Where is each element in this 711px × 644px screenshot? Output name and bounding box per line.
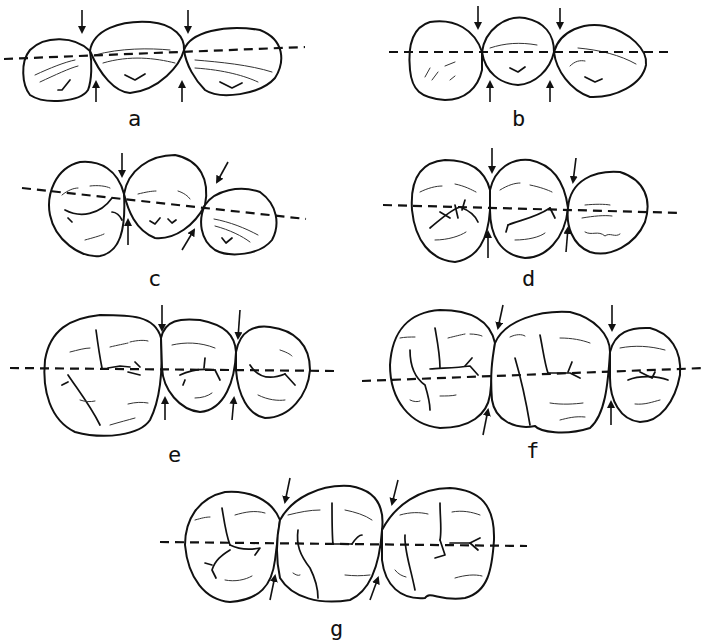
tooth-e1 [44,315,161,436]
tooth-e3 [236,327,310,418]
panel-c [22,153,306,256]
tooth-c1 [49,162,124,256]
panel-e [10,305,336,436]
tooth-c3 [201,189,276,254]
panel-label-f: f [526,440,539,462]
panel-label-a: a [128,108,141,130]
panel-d [383,148,682,262]
panel-a [4,10,305,102]
panel-label-d: d [522,268,535,290]
tooth-b1 [409,21,482,100]
tooth-a1 [23,39,91,101]
panel-b [389,6,672,102]
panel-label-b: b [512,108,525,130]
panel-g [160,478,527,602]
panel-f [362,305,705,435]
tooth-contact-diagram [0,0,711,644]
tooth-g3 [382,488,494,599]
panel-label-c: c [148,268,161,290]
panel-label-e: e [168,444,181,466]
tooth-d3 [568,172,648,254]
tooth-a2 [90,22,184,93]
tooth-b3 [554,25,646,97]
panel-label-g: g [330,618,343,640]
tooth-c2 [124,155,206,238]
tooth-a3 [184,28,281,95]
